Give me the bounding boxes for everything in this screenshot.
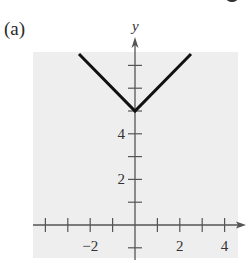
x-tick-label: −2: [82, 238, 98, 254]
y-axis-label: y: [130, 18, 139, 34]
x-tick-label: 2: [176, 238, 184, 254]
chart: y −22424: [0, 0, 249, 263]
x-tick-label: 4: [221, 238, 229, 254]
y-tick-label: 2: [118, 171, 126, 187]
y-tick-label: 4: [118, 126, 126, 142]
